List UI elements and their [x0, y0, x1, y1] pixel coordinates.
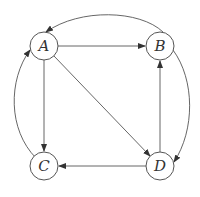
node-d: D: [146, 152, 174, 180]
edge-a-d: [54, 56, 150, 156]
node-b: B: [146, 32, 174, 60]
edge-c-a: [14, 50, 36, 158]
node-c: C: [30, 152, 58, 180]
node-a: A: [30, 32, 58, 60]
node-d-label: D: [153, 157, 166, 175]
edge-b-a: [46, 15, 163, 32]
node-c-label: C: [38, 157, 50, 175]
edge-b-d: [173, 50, 190, 162]
node-b-label: B: [153, 37, 165, 55]
graph-diagram: A B C D: [0, 0, 200, 197]
node-a-label: A: [37, 37, 50, 55]
